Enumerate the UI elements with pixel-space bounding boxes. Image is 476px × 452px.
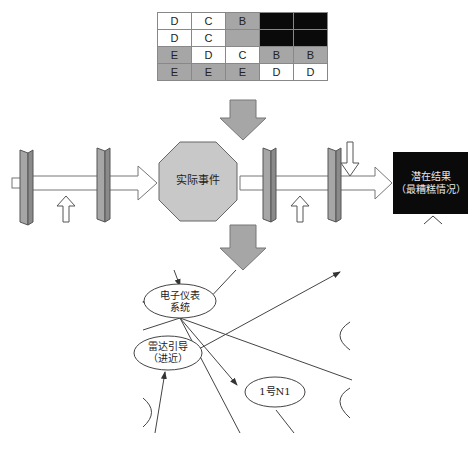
outcome-box xyxy=(393,152,468,214)
down-arrow-icon xyxy=(220,225,266,270)
down-arrow-icon xyxy=(220,100,266,140)
barrier-icon xyxy=(20,150,33,225)
node1-label-line1: 电子仪表 xyxy=(144,290,216,302)
outcome-label-line1: 潜在结果 xyxy=(393,171,468,183)
barrier-icon xyxy=(328,148,341,222)
up-arrow-icon xyxy=(57,196,75,222)
node3-label: 1号N1 xyxy=(245,386,305,398)
diagram-canvas xyxy=(0,0,476,452)
barrier-icon xyxy=(97,148,110,222)
barrier-icon xyxy=(263,148,276,222)
node2-label-line2: （进近） xyxy=(134,353,202,365)
up-arrow-icon xyxy=(291,196,309,222)
outcome-label-line2: （最糟糕情况） xyxy=(393,184,468,196)
down-arrow-icon xyxy=(341,142,359,176)
event-label: 实际事件 xyxy=(159,175,237,187)
flow-arrow-icon xyxy=(22,166,157,200)
node2-label-line1: 雷达引导 xyxy=(134,341,202,353)
node1-label-line2: 系统 xyxy=(144,302,216,314)
